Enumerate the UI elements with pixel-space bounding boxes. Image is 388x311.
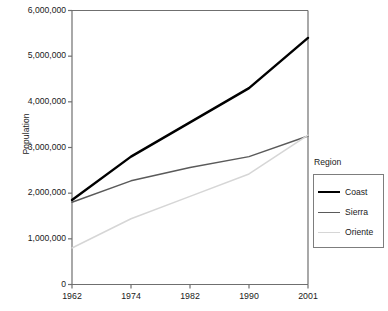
legend-item-label: Coast xyxy=(345,187,367,197)
x-tick-label: 1982 xyxy=(167,291,213,301)
legend-line-swatch-icon xyxy=(318,232,340,233)
x-tick-label: 2001 xyxy=(285,291,331,301)
data-series-lines xyxy=(72,38,308,248)
series-line-coast xyxy=(72,38,308,200)
legend-title: Region xyxy=(314,157,384,167)
legend-item-sierra[interactable]: Sierra xyxy=(314,202,383,222)
legend: Region CoastSierraOriente xyxy=(313,157,384,248)
x-tick-label: 1990 xyxy=(226,291,272,301)
y-tick-label: 0 xyxy=(8,280,66,289)
y-tick-label: 4,000,000 xyxy=(8,97,66,106)
x-tick-label: 1974 xyxy=(108,291,154,301)
population-line-chart: Population 01,000,0002,000,0003,000,0004… xyxy=(0,0,388,311)
legend-line-swatch-icon xyxy=(318,191,340,193)
y-tick-label: 5,000,000 xyxy=(8,51,66,60)
legend-line-swatch-icon xyxy=(318,212,340,213)
axis-lines xyxy=(72,11,308,285)
series-line-sierra xyxy=(72,136,308,202)
legend-item-label: Sierra xyxy=(345,207,368,217)
y-tick-label: 3,000,000 xyxy=(8,143,66,152)
legend-item-label: Oriente xyxy=(345,227,373,237)
y-tick-labels: 01,000,0002,000,0003,000,0004,000,0005,0… xyxy=(0,0,66,311)
legend-item-oriente[interactable]: Oriente xyxy=(314,222,383,242)
y-tick-label: 1,000,000 xyxy=(8,234,66,243)
x-tick-label: 1962 xyxy=(49,291,95,301)
series-line-oriente xyxy=(72,135,308,248)
y-tick-label: 2,000,000 xyxy=(8,188,66,197)
y-tick-label: 6,000,000 xyxy=(8,6,66,15)
legend-item-coast[interactable]: Coast xyxy=(314,182,383,202)
legend-box: CoastSierraOriente xyxy=(313,174,384,248)
